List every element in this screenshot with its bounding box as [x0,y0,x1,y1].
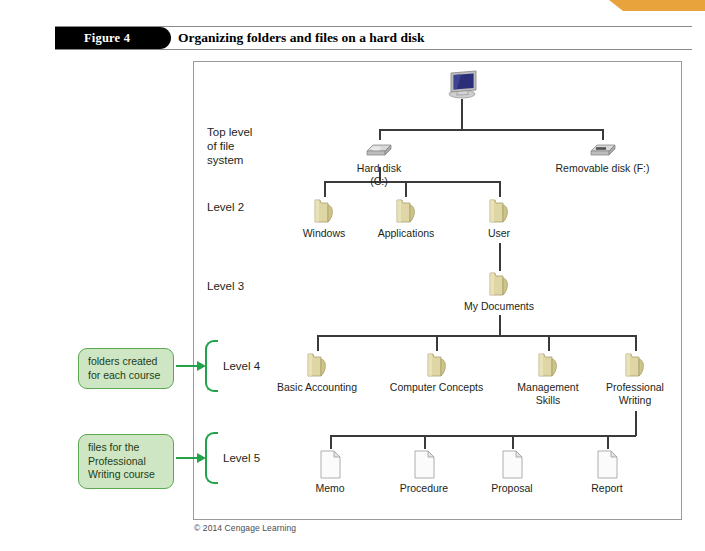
node-label-hard-disk: Hard disk (C:) [349,162,409,188]
connector-drop-report [607,435,609,449]
level-label-top: Top level of file system [207,125,252,167]
node-label-user: User [472,227,526,240]
node-label-basic-accounting: Basic Accounting [273,381,361,394]
figure-number-label: Figure 4 [55,27,159,49]
node-label-my-documents: My Documents [456,300,542,313]
callout-files-professional-writing: files for the Professional Writing cours… [78,434,174,489]
node-label-windows: Windows [294,227,354,240]
folder-icon [311,197,337,225]
node-folder-professional-writing[interactable]: Professional Writing [598,351,672,407]
node-folder-computer-concepts[interactable]: Computer Concepts [388,351,485,394]
connector-drop-procedure [424,435,426,449]
hard-disk-icon [364,140,394,160]
folder-icon [424,351,450,379]
document-icon [317,449,343,480]
node-file-proposal[interactable]: Proposal [483,449,541,495]
figure-header: Figure 4 Organizing folders and files on… [55,26,692,50]
node-label-professional-writing: Professional Writing [598,381,672,407]
connector-professional-writing-drop [635,411,637,436]
connector-drop-removable-disk [602,129,604,140]
node-label-proposal: Proposal [483,482,541,495]
figure-number-tab: Figure 4 [55,27,171,49]
node-folder-my-documents[interactable]: My Documents [456,270,542,313]
node-label-report: Report [582,482,632,495]
connector-level5-bus [330,435,636,437]
connector-drop-hard-disk [379,129,381,140]
level-label-level4: Level 4 [223,359,260,373]
node-folder-user[interactable]: User [472,197,526,240]
node-folder-windows[interactable]: Windows [294,197,354,240]
connector-drop-professional-writing [635,335,637,351]
node-removable-disk[interactable]: Removable disk (F:) [545,140,660,175]
connector-drop-proposal [512,435,514,449]
connector-drop-windows [324,181,326,197]
node-computer[interactable] [444,69,480,99]
folder-icon [622,351,648,379]
node-hard-disk[interactable]: Hard disk (C:) [349,140,409,188]
folder-icon [486,197,512,225]
computer-icon [445,69,479,99]
folder-icon [486,270,512,298]
node-file-procedure[interactable]: Procedure [393,449,455,495]
connector-drop-user [499,181,501,197]
connector-my-documents-drop [499,315,501,336]
removable-disk-icon [588,140,618,160]
brace-level4 [205,340,218,392]
connector-user-to-my-documents [499,243,501,271]
folder-icon [304,351,330,379]
callout-folders-created: folders created for each course [78,348,174,389]
connector-drop-management-skills [548,335,550,351]
node-label-computer-concepts: Computer Concepts [388,381,485,394]
connector-level2-disk-bus [379,129,603,131]
brace-level5 [205,432,218,484]
node-file-memo[interactable]: Memo [305,449,355,495]
node-file-report[interactable]: Report [582,449,632,495]
folder-icon [535,351,561,379]
document-icon [499,449,525,480]
connector-drop-memo [330,435,332,449]
connector-level4-bus [317,335,636,337]
folder-icon [393,197,419,225]
level-label-level2: Level 2 [207,200,244,214]
connector-drop-computer-concepts [436,335,438,351]
connector-root-drop [461,99,463,130]
node-label-applications: Applications [370,227,442,240]
page-accent-bar [623,0,705,11]
node-label-procedure: Procedure [393,482,455,495]
document-icon [411,449,437,480]
copyright-notice: © 2014 Cengage Learning [194,523,296,533]
callout-arrow-level5 [176,457,198,459]
level-label-level3: Level 3 [207,279,244,293]
node-folder-basic-accounting[interactable]: Basic Accounting [273,351,361,394]
node-folder-applications[interactable]: Applications [370,197,442,240]
node-label-removable-disk: Removable disk (F:) [545,162,660,175]
node-folder-management-skills[interactable]: Management Skills [509,351,587,407]
document-icon [594,449,620,480]
level-label-level5: Level 5 [223,451,260,465]
figure-rule-bottom [55,49,692,50]
connector-drop-basic-accounting [317,335,319,351]
figure-title: Organizing folders and files on a hard d… [178,27,424,49]
node-label-management-skills: Management Skills [509,381,587,407]
node-label-memo: Memo [305,482,355,495]
callout-arrow-level4 [176,365,198,367]
